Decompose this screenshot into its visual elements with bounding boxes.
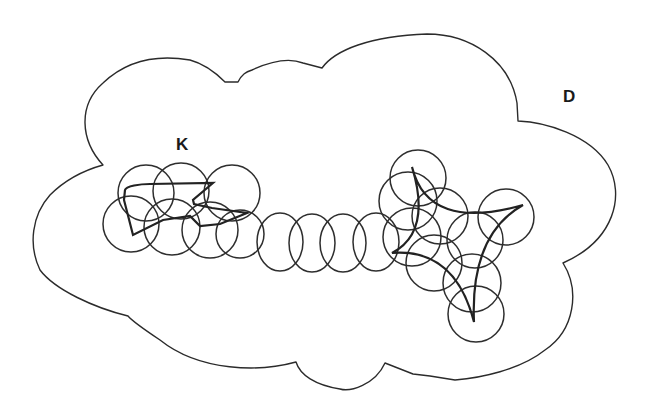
region-d-outline — [33, 34, 615, 390]
cover-disc — [216, 210, 264, 258]
cover-disc — [448, 286, 504, 342]
cover-disc — [289, 214, 335, 272]
cover-disc — [153, 163, 209, 219]
cover-diagram: D K — [0, 0, 645, 405]
region-label-d: D — [563, 87, 575, 106]
cover-circles-chain — [257, 213, 399, 272]
cover-disc — [353, 213, 399, 271]
cover-disc — [443, 254, 501, 312]
cover-disc — [144, 199, 200, 255]
set-label-k: K — [176, 135, 189, 154]
